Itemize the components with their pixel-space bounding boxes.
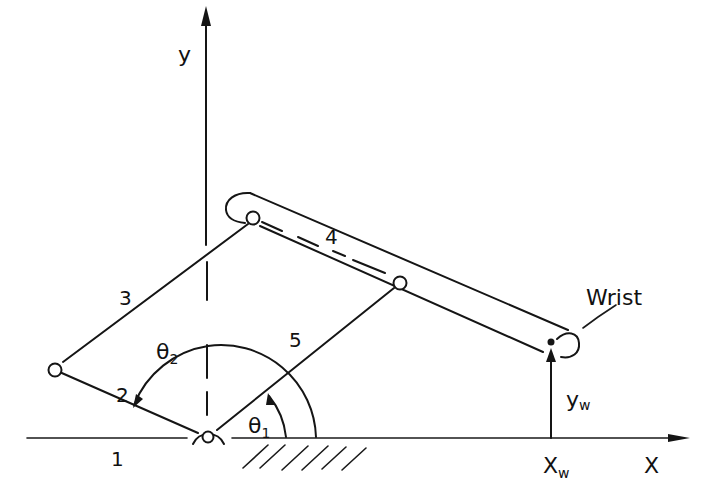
y-axis-label: y (178, 42, 191, 67)
wrist-label: Wrist (586, 285, 642, 310)
joint-top-left (247, 212, 260, 225)
x-axis: X (27, 434, 690, 478)
joint-left (49, 364, 62, 377)
wrist: Wrist yw Xw (543, 285, 642, 481)
yw-label: yw (566, 387, 590, 413)
theta-1-arrow-icon (266, 393, 275, 405)
link-4-label: 4 (325, 225, 338, 249)
theta-2-arc: θ2 (133, 339, 316, 437)
y-axis-arrow-icon (201, 6, 211, 26)
link-2-label: 2 (116, 383, 129, 407)
joint-middle (394, 277, 407, 290)
x-axis-arrow-icon (668, 434, 690, 442)
yw-arrow-icon (546, 348, 556, 362)
theta-1-label: θ1 (248, 413, 270, 441)
x-axis-label: X (644, 453, 659, 478)
ground-hatching (243, 445, 366, 470)
xw-label: Xw (543, 453, 570, 481)
theta-2-label: θ2 (156, 339, 178, 367)
link-5-label: 5 (289, 328, 302, 352)
link-5 (217, 288, 394, 430)
wrist-point (548, 339, 555, 346)
link-1-label: 1 (111, 447, 124, 471)
link-3-label: 3 (119, 286, 132, 310)
link-4-bar (226, 193, 579, 357)
linkage-diagram: y X 1 2 3 (0, 0, 720, 503)
